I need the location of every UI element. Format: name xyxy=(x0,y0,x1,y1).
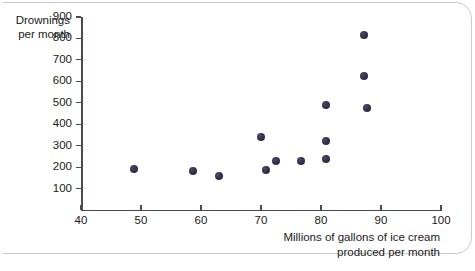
data-point xyxy=(297,157,305,165)
data-point xyxy=(272,157,280,165)
data-point xyxy=(322,155,330,163)
y-tick-mark xyxy=(76,38,81,39)
y-tick-label: 500 xyxy=(38,97,72,109)
x-tick-mark xyxy=(140,205,141,210)
data-point xyxy=(189,167,197,175)
y-tick-mark xyxy=(76,124,81,125)
y-tick-mark xyxy=(76,81,81,82)
y-tick-label: 900 xyxy=(38,11,72,23)
y-tick-mark xyxy=(76,188,81,189)
data-point xyxy=(257,133,265,141)
x-tick-label: 70 xyxy=(241,215,281,227)
x-axis-title: Millions of gallons of ice cream produce… xyxy=(230,230,440,259)
x-tick-mark xyxy=(320,205,321,210)
x-axis-title-line2: produced per month xyxy=(230,245,440,260)
plot-area: Drownings per month Millions of gallons … xyxy=(0,0,475,271)
y-tick-mark xyxy=(76,167,81,168)
x-tick-label: 40 xyxy=(61,215,101,227)
data-point xyxy=(360,31,368,39)
data-point xyxy=(322,137,330,145)
x-tick-mark xyxy=(380,205,381,210)
y-tick-label: 600 xyxy=(38,75,72,87)
y-tick-mark xyxy=(76,102,81,103)
x-tick-label: 60 xyxy=(181,215,221,227)
x-tick-mark xyxy=(200,205,201,210)
x-tick-label: 100 xyxy=(421,215,461,227)
x-axis-line xyxy=(81,210,442,212)
y-tick-label: 400 xyxy=(38,118,72,130)
y-tick-label: 200 xyxy=(38,161,72,173)
y-tick-mark xyxy=(76,16,81,17)
x-tick-mark xyxy=(260,205,261,210)
x-tick-label: 80 xyxy=(301,215,341,227)
data-point xyxy=(363,104,371,112)
data-point xyxy=(360,72,368,80)
data-point xyxy=(262,166,270,174)
y-tick-label: 800 xyxy=(38,32,72,44)
y-tick-label: 700 xyxy=(38,54,72,66)
scatter-plot-figure: Drownings per month Millions of gallons … xyxy=(0,0,475,271)
x-tick-mark xyxy=(440,205,441,210)
data-point xyxy=(130,165,138,173)
y-tick-mark xyxy=(76,59,81,60)
y-tick-label: 100 xyxy=(38,183,72,195)
y-axis-line xyxy=(81,17,83,211)
data-point xyxy=(322,101,330,109)
x-tick-label: 90 xyxy=(361,215,401,227)
x-tick-label: 50 xyxy=(121,215,161,227)
x-tick-mark xyxy=(80,205,81,210)
y-tick-label: 300 xyxy=(38,140,72,152)
y-tick-mark xyxy=(76,145,81,146)
x-axis-title-line1: Millions of gallons of ice cream xyxy=(230,230,440,245)
data-point xyxy=(215,172,223,180)
